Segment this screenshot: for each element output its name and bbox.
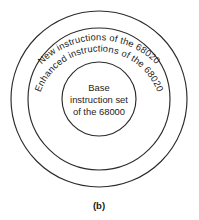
inner-label-line-3: of the 68000 [73, 106, 125, 117]
figure-container: New instructions of the 68020 Enhanced i… [0, 0, 199, 220]
inner-label-line-1: Base [88, 82, 109, 93]
concentric-circles-diagram: New instructions of the 68020 Enhanced i… [0, 0, 199, 220]
inner-label-line-2: instruction set [70, 94, 128, 105]
figure-caption: (b) [93, 200, 105, 211]
